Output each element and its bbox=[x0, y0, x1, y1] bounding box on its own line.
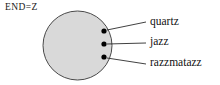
leader-line-quartz bbox=[107, 22, 146, 30]
element-dot-jazz bbox=[101, 41, 106, 46]
element-dot-razzmatazz bbox=[101, 54, 106, 59]
element-dot-quartz bbox=[101, 28, 106, 33]
leader-line-razzmatazz bbox=[107, 58, 146, 64]
leader-line-jazz bbox=[107, 43, 146, 44]
member-label-quartz: quartz bbox=[150, 16, 179, 28]
diagram-canvas bbox=[0, 0, 220, 85]
set-circle bbox=[43, 11, 112, 80]
venn-set-diagram: END=Z quartz jazz razzmatazz bbox=[0, 0, 220, 85]
member-label-jazz: jazz bbox=[150, 36, 169, 48]
member-label-razzmatazz: razzmatazz bbox=[150, 57, 202, 69]
set-label: END=Z bbox=[5, 2, 38, 12]
